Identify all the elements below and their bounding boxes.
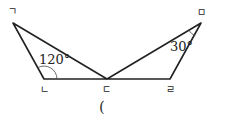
vertex-label-e: ㅁ [197,7,206,18]
vertex-label-c: ㄷ [102,84,111,95]
angle-label-30: 30° [170,39,193,54]
answer-parenthesis: ( [99,98,105,116]
angle-label-120: 120° [39,52,70,67]
vertex-label-b: ㄴ [40,84,49,95]
geometry-diagram: ㄱ ㄴ ㄷ ㄹ ㅁ 120° 30° ( [0,0,234,121]
vertex-label-a: ㄱ [8,6,17,17]
triangle-left [13,23,107,79]
vertex-label-d: ㄹ [166,84,175,95]
angle-arc-e [189,30,196,36]
